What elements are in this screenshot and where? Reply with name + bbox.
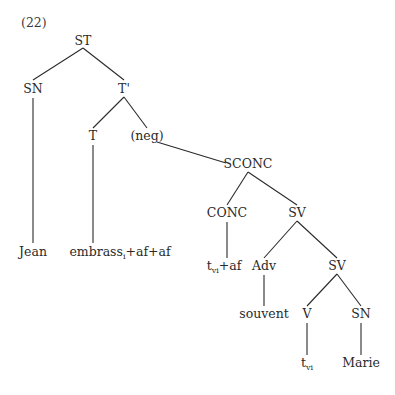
tree-edge-sv1-sv2: [297, 221, 337, 258]
tree-node-sconc: SCONC: [224, 156, 273, 171]
tree-edge-sv1-adv: [264, 221, 297, 258]
syntax-tree: (22) STSNT'T(neg)SCONCCONCSVAdvSVVSNJean…: [0, 0, 395, 395]
tree-node-st: ST: [75, 33, 93, 48]
tree-node-tvi_af: tvi+af: [207, 258, 243, 275]
tree-node-v: V: [301, 306, 312, 321]
tree-node-tvi: tvi: [301, 355, 314, 372]
tree-edge-sv2-v: [307, 274, 337, 306]
tree-node-t: T: [89, 128, 98, 143]
tree-node-jean: Jean: [17, 244, 47, 259]
tree-edge-tbar-t: [93, 97, 124, 128]
tree-edge-sconc-conc: [227, 172, 248, 205]
tree-node-souvent: souvent: [239, 306, 289, 321]
tree-edges: [33, 48, 361, 355]
tree-edge-tbar-neg: [124, 97, 147, 128]
tree-node-tbar: T': [118, 81, 130, 96]
tree-node-sv2: SV: [328, 258, 347, 273]
tree-node-sn1: SN: [23, 81, 43, 96]
tree-node-neg: (neg): [130, 128, 163, 143]
tree-labels: STSNT'T(neg)SCONCCONCSVAdvSVVSNJeanembra…: [17, 33, 380, 372]
example-number: (22): [21, 15, 47, 30]
tree-node-sv1: SV: [288, 205, 307, 220]
tree-edge-st-tbar: [83, 48, 124, 80]
tree-edge-st-sn1: [33, 48, 83, 80]
tree-node-conc: CONC: [207, 205, 247, 220]
tree-edge-sconc-sv1: [248, 172, 297, 205]
tree-edge-sv2-sn2: [337, 274, 361, 306]
tree-node-embrass: embrassi+af+af: [69, 244, 172, 261]
tree-edge-neg-sconc: [157, 142, 226, 163]
tree-node-sn2: SN: [351, 306, 371, 321]
tree-node-adv: Adv: [251, 258, 277, 273]
tree-node-marie: Marie: [342, 355, 380, 370]
